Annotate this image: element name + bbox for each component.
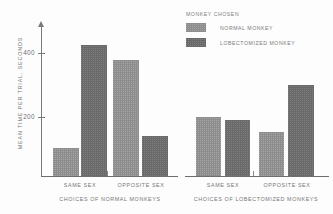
x-category-label-right-opposite-sex: OPPOSITE SEX — [254, 182, 320, 188]
bar-lobect-samesex-normal — [196, 117, 221, 176]
x-axis-line-left-group — [41, 176, 178, 177]
x-group-label-normal-monkeys: CHOICES OF NORMAL MONKEYS — [36, 196, 184, 202]
x-category-label-left-same-sex: SAME SEX — [50, 182, 110, 188]
bar-normal-samesex-lobect — [81, 45, 107, 176]
x-category-label-left-opposite-sex: OPPOSITE SEX — [108, 182, 174, 188]
bar-lobect-oppsex-lobect — [288, 85, 314, 176]
bar-normal-oppsex-normal — [113, 60, 139, 176]
x-category-label-right-same-sex: SAME SEX — [193, 182, 253, 188]
bar-normal-samesex-normal — [53, 148, 79, 176]
bar-chart: MONKEY CHOSEN NORMAL MONKEY LOBECTOMIZED… — [0, 0, 333, 214]
bar-normal-oppsex-lobect — [142, 136, 168, 176]
plot-area — [0, 0, 333, 176]
x-group-label-lobectomized-monkeys: CHOICES OF LOBECTOMIZED MONKEYS — [178, 196, 333, 202]
bar-lobect-oppsex-normal — [259, 132, 284, 176]
x-axis-line-right-group — [185, 176, 329, 177]
bar-lobect-samesex-lobect — [225, 120, 250, 176]
